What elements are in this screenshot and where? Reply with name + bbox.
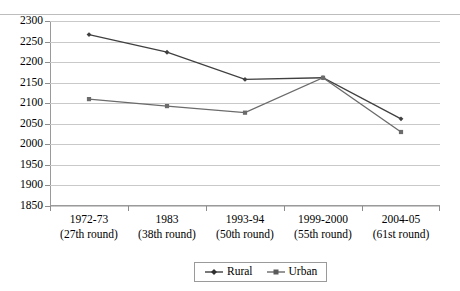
x-axis-label-round: (50th round): [216, 227, 274, 242]
x-axis-tick-label: 1972-73(27th round): [60, 212, 118, 242]
rural-line-marker-icon: [204, 267, 224, 277]
series-line-urban: [89, 78, 401, 132]
data-point-urban-4: [399, 130, 403, 134]
x-axis-tick-label: 1993-94(50th round): [216, 212, 274, 242]
chart-top-rule: [0, 14, 460, 15]
x-axis-tick-label: 1983(38th round): [138, 212, 196, 242]
x-axis-label-round: (61st round): [373, 227, 430, 242]
data-point-urban-3: [321, 76, 325, 80]
legend-label-urban: Urban: [289, 266, 318, 278]
chart-legend: Rural Urban: [194, 262, 327, 282]
x-axis-tick: [284, 206, 285, 211]
data-point-urban-0: [87, 97, 91, 101]
y-axis-tick-label: 1950: [20, 159, 43, 171]
x-axis-tick: [439, 206, 440, 211]
urban-line-marker-icon: [266, 267, 286, 277]
legend-label-rural: Rural: [227, 266, 253, 278]
x-axis-label-period: 1999-2000: [298, 213, 348, 225]
x-axis-tick-label: 1999-2000(55th round): [294, 212, 352, 242]
x-axis-tick-label: 2004-05(61st round): [373, 212, 430, 242]
y-axis-tick-label: 2150: [20, 77, 43, 89]
y-axis-tick-label: 2100: [20, 97, 43, 109]
x-axis-label-round: (27th round): [60, 227, 118, 242]
y-axis-tick-label: 2250: [20, 36, 43, 48]
series-rural: [87, 32, 404, 121]
x-axis-tick: [206, 206, 207, 211]
x-axis-label-period: 1983: [156, 213, 179, 225]
y-axis-tick-label: 1900: [20, 180, 43, 192]
data-point-urban-1: [165, 104, 169, 108]
gridline: [50, 206, 440, 207]
data-point-rural-4: [399, 116, 404, 121]
plot-area: [50, 21, 440, 206]
x-axis-tick: [50, 206, 51, 211]
x-axis-label-round: (55th round): [294, 227, 352, 242]
series-line-rural: [89, 35, 401, 119]
series-urban: [87, 76, 403, 134]
line-chart: 2300225022002150210020502000195019001850…: [0, 0, 460, 291]
y-axis-tick-label: 2000: [20, 139, 43, 151]
y-axis-tick-label: 1850: [20, 200, 43, 212]
data-point-rural-1: [165, 50, 170, 55]
x-axis-label-period: 2004-05: [382, 213, 420, 225]
legend-item-rural[interactable]: Rural: [204, 266, 253, 278]
series-layer: [50, 21, 440, 206]
data-point-rural-2: [243, 77, 248, 82]
x-axis-label-period: 1993-94: [226, 213, 264, 225]
y-axis-tick-label: 2200: [20, 56, 43, 68]
data-point-urban-2: [243, 111, 247, 115]
x-axis-label-round: (38th round): [138, 227, 196, 242]
data-point-rural-0: [87, 32, 92, 37]
x-axis-tick: [128, 206, 129, 211]
y-axis-tick-label: 2050: [20, 118, 43, 130]
x-axis-tick: [362, 206, 363, 211]
legend-item-urban[interactable]: Urban: [266, 266, 318, 278]
y-axis-tick-label: 2300: [20, 15, 43, 27]
x-axis-label-period: 1972-73: [70, 213, 108, 225]
